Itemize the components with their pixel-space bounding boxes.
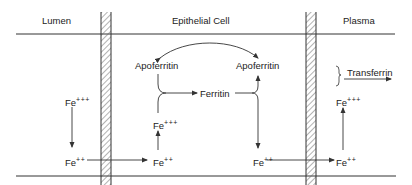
apical-membrane xyxy=(101,12,111,185)
lumen-ferric-iron: Fe+++ xyxy=(65,94,90,108)
region-label-lumen: Lumen xyxy=(42,15,71,26)
apoferritin-cycle-arrow xyxy=(160,43,258,58)
junction-to-ferrous-curve xyxy=(252,93,258,148)
cell-ferrous-iron-exit: Fe++ xyxy=(253,154,273,168)
apoferritin-right-label: Apoferritin xyxy=(236,60,279,71)
region-label-epithelial-cell: Epithelial Cell xyxy=(172,15,230,26)
region-label-plasma: Plasma xyxy=(343,15,375,26)
cell-ferrous-iron: Fe++ xyxy=(153,154,173,168)
plasma-ferric-iron: Fe+++ xyxy=(336,94,361,108)
cell-ferric-iron: Fe+++ xyxy=(153,117,178,131)
apoferritin-left-label: Apoferritin xyxy=(135,60,178,71)
apoferritin-to-ferritin-curve xyxy=(158,74,197,93)
ferritin-label: Ferritin xyxy=(200,88,230,99)
transferrin-bracket xyxy=(336,66,341,86)
lumen-ferrous-iron: Fe++ xyxy=(65,154,85,168)
ferric-to-ferritin-curve xyxy=(158,93,166,113)
junction-to-apoferritin-curve xyxy=(252,76,258,93)
transferrin-label: Transferrin xyxy=(347,67,393,78)
plasma-ferrous-iron: Fe++ xyxy=(336,154,356,168)
basolateral-membrane xyxy=(306,12,316,185)
